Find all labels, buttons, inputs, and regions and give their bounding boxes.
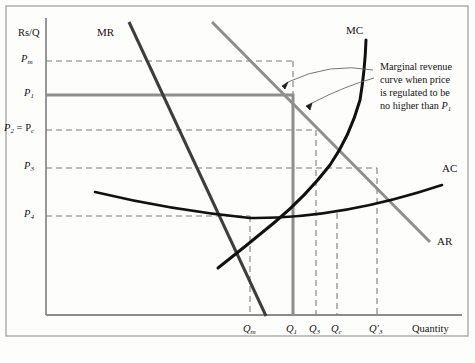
tick-label-p2pc: P2 = Pc <box>4 122 34 133</box>
annotation-line-4-text: no higher than <box>380 100 441 111</box>
tick-q3-sub: 3 <box>317 328 321 336</box>
annotation-p1-sub: 1 <box>448 105 451 112</box>
curve-label-ar: AR <box>437 236 452 248</box>
tick-label-p1: P1 <box>24 87 34 98</box>
tick-pc-sub: c <box>31 127 34 135</box>
tick-p3-sub: 3 <box>30 165 34 173</box>
tick-label-q1: Q1 <box>286 323 297 334</box>
curve-label-mr: MR <box>97 27 114 39</box>
curve-label-ac: AC <box>442 163 457 175</box>
tick-label-pm: Pm <box>21 53 33 64</box>
tick-label-p3: P3 <box>24 160 34 171</box>
tick-p2-sub: 2 <box>10 127 14 135</box>
tick-q1-sub: 1 <box>294 328 298 336</box>
annotation-line-3: is regulated to be <box>380 86 475 99</box>
tick-pm-sub: m <box>27 58 32 66</box>
economics-diagram: Rs/Q Pm P1 P2 = Pc P3 P4 Qm Q1 Q3 Qc Q′3… <box>0 0 475 363</box>
tick-qc-symbol: Q <box>331 323 339 334</box>
annotation-line-1: Marginal revenue <box>380 60 475 73</box>
annotation-text: Marginal revenue curve when price is reg… <box>380 60 475 112</box>
tick-label-q3prime: Q′3 <box>369 323 382 334</box>
figure-frame <box>6 6 468 336</box>
tick-q1-symbol: Q <box>286 323 294 334</box>
x-axis-title: Quantity <box>412 323 449 334</box>
tick-qm-sub: m <box>251 328 256 336</box>
y-axis-title: Rs/Q <box>18 27 40 38</box>
tick-label-qc: Qc <box>331 323 342 334</box>
diagram-canvas <box>0 0 475 363</box>
tick-label-p4: P4 <box>24 208 34 219</box>
tick-qc-sub: c <box>339 328 342 336</box>
tick-label-q3: Q3 <box>309 323 320 334</box>
tick-p1-sub: 1 <box>30 92 34 100</box>
curve-label-mc: MC <box>346 25 363 37</box>
annotation-p1-symbol: P <box>441 100 447 111</box>
tick-q3prime-symbol: Q′ <box>369 323 379 334</box>
tick-q3-symbol: Q <box>309 323 317 334</box>
tick-q3prime-sub: 3 <box>379 328 383 336</box>
tick-p4-sub: 4 <box>30 213 34 221</box>
annotation-line-2: curve when price <box>380 73 475 86</box>
tick-label-qm: Qm <box>243 323 256 334</box>
tick-qm-symbol: Q <box>243 323 251 334</box>
annotation-line-4: no higher than P1 <box>380 99 475 112</box>
tick-p2-equals: = P <box>14 122 31 133</box>
